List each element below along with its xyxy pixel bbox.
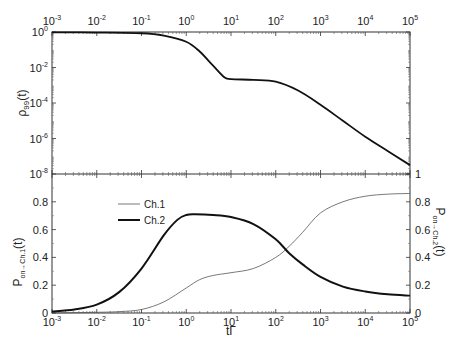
chart-figure: 10-310-310-210-210-110-11001001011011021… xyxy=(0,0,459,352)
right-y-tick-label: 0 xyxy=(415,307,421,319)
top-y-tick-label: 10-8 xyxy=(30,167,49,180)
svg-text:Pon→Ch.2(t): Pon→Ch.2(t) xyxy=(432,208,447,257)
bottom-x-tick-label: 103 xyxy=(312,315,328,328)
left-y-tick-label: 0.4 xyxy=(33,251,48,263)
top-x-tick-label: 102 xyxy=(268,14,284,27)
top-y-tick-label: 10-4 xyxy=(30,96,49,109)
right-y-tick-label: 0.8 xyxy=(415,196,430,208)
top-x-tick-label: 105 xyxy=(402,14,418,27)
bottom-x-tick-label: 100 xyxy=(178,315,194,328)
svg-text:Pon→Ch.1(t): Pon→Ch.1(t) xyxy=(11,238,26,287)
legend-label-ch2: Ch.2 xyxy=(144,215,166,226)
left-y-tick-label: 0 xyxy=(42,307,48,319)
bottom-x-tick-label: 104 xyxy=(357,315,373,328)
ch1-curve xyxy=(52,193,410,313)
svg-text:ρ99(t): ρ99(t) xyxy=(15,89,31,116)
tick-labels: 10-310-310-210-210-110-11001001011011021… xyxy=(30,14,431,328)
top-x-tick-label: 101 xyxy=(223,14,239,27)
right-y-tick-label: 0.2 xyxy=(415,279,430,291)
bottom-x-tick-label: 10-2 xyxy=(88,315,107,328)
legend: Ch.1 Ch.2 xyxy=(118,199,166,226)
axis-ticks xyxy=(52,32,410,313)
top-x-tick-label: 10-1 xyxy=(132,14,151,27)
top-y-axis-label: ρ99(t) xyxy=(15,89,31,116)
top-x-tick-label: 103 xyxy=(312,14,328,27)
bottom-x-tick-label: 102 xyxy=(268,315,284,328)
x-axis-label: tΓ xyxy=(226,324,236,338)
left-y-tick-label: 0.2 xyxy=(33,279,48,291)
bottom-left-y-axis-label: Pon→Ch.1(t) xyxy=(11,238,26,287)
right-y-tick-label: 1 xyxy=(415,168,421,180)
top-y-tick-label: 10-6 xyxy=(30,132,49,145)
ch2-curve xyxy=(52,214,410,311)
left-y-tick-label: 0.6 xyxy=(33,224,48,236)
top-x-tick-label: 100 xyxy=(178,14,194,27)
bottom-right-y-axis-label: Pon→Ch.2(t) xyxy=(432,208,447,257)
top-x-tick-label: 104 xyxy=(357,14,373,27)
bottom-x-tick-label: 10-1 xyxy=(132,315,151,328)
left-y-tick-label: 0.8 xyxy=(33,196,48,208)
right-y-tick-label: 0.4 xyxy=(415,251,430,263)
legend-label-ch1: Ch.1 xyxy=(144,199,166,210)
top-y-tick-label: 100 xyxy=(32,25,48,38)
rho99-curve xyxy=(52,32,410,165)
top-y-tick-label: 10-2 xyxy=(30,61,49,74)
right-y-tick-label: 0.6 xyxy=(415,224,430,236)
top-x-tick-label: 10-2 xyxy=(88,14,107,27)
